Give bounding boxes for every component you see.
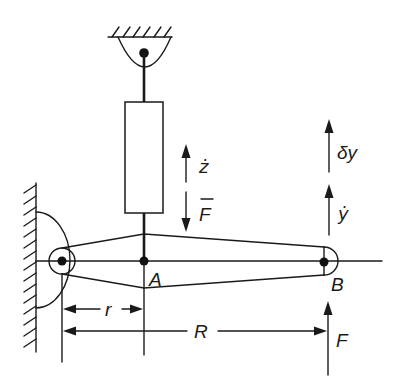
virtual-displacement-label: δy — [337, 142, 359, 163]
arrow-up-icon — [182, 144, 191, 158]
arrow-down-icon — [182, 218, 191, 232]
damper-velocity-label: ż — [198, 156, 209, 177]
dimension-R-label: R — [194, 321, 208, 342]
end-b-velocity-label: ẏ — [337, 203, 349, 224]
virtual-displacement-arrow — [325, 119, 334, 172]
arrow-left-icon — [63, 327, 76, 336]
dimension-r-label: r — [105, 299, 112, 320]
damper-cylinder — [125, 102, 163, 213]
point-a-label: A — [148, 269, 162, 290]
lever-damper-diagram: ż F — [0, 0, 402, 391]
damper-force-arrow — [182, 192, 191, 232]
arrow-up-icon — [325, 119, 334, 133]
ceiling-support — [108, 27, 172, 67]
wall-support — [24, 183, 70, 352]
damper — [125, 53, 163, 261]
end-b-velocity-arrow — [325, 184, 334, 235]
damper-force-label: F — [199, 204, 212, 225]
lever-upper-edge — [62, 234, 324, 248]
arrow-up-icon — [324, 301, 333, 315]
point-b-label: B — [331, 274, 344, 295]
applied-force-label: F — [336, 330, 349, 351]
dimension-r — [63, 305, 143, 314]
damper-velocity-arrow — [182, 144, 191, 182]
arrow-right-icon — [314, 327, 327, 336]
applied-force-arrow — [324, 301, 333, 375]
ceiling-hatching — [112, 27, 171, 37]
arrow-up-icon — [325, 184, 334, 198]
arrow-left-icon — [63, 305, 76, 314]
arrow-right-icon — [130, 305, 143, 314]
lever-lower-edge — [62, 274, 324, 288]
damper-force-label-group: F — [199, 199, 213, 225]
wall-hatching — [24, 185, 36, 347]
pivot-pin-icon — [58, 257, 67, 266]
point-b-pin-icon — [320, 258, 329, 267]
